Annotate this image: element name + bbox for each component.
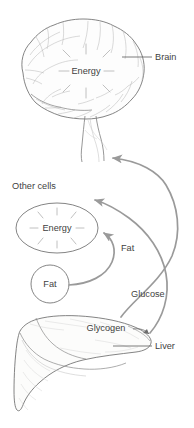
diagram-canvas: Energy Brain Other cells Energy <box>0 0 194 428</box>
fat-store-group: Fat <box>31 265 69 303</box>
brain-organ: Energy Brain <box>22 19 177 162</box>
other-cells-label: Other cells <box>12 181 56 191</box>
glucose-to-other-cells-arrow <box>95 200 167 333</box>
liver-outline <box>14 316 151 411</box>
glucose-flow-label: Glucose <box>131 289 165 299</box>
fat-flow-label: Fat <box>121 243 135 253</box>
brain-stem <box>81 116 107 162</box>
brain-energy-label: Energy <box>71 66 101 76</box>
liver-organ: Glycogen Liver <box>14 316 175 411</box>
liver-label: Liver <box>155 341 175 351</box>
other-cells-group: Other cells Energy <box>12 181 98 253</box>
other-cells-energy-label: Energy <box>42 223 72 233</box>
glycogen-label: Glycogen <box>87 323 126 333</box>
brain-label: Brain <box>155 52 176 62</box>
fat-store-label: Fat <box>43 279 57 289</box>
metabolism-diagram: Energy Brain Other cells Energy <box>0 0 194 428</box>
